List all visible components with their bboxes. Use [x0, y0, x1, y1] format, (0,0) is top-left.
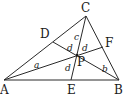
region-label-b: b [102, 64, 108, 74]
label-f: F [105, 36, 113, 50]
label-c: C [81, 1, 90, 15]
label-p: P [77, 55, 85, 69]
region-label-d-bottom: d [65, 63, 71, 73]
cevian-af [4, 47, 103, 80]
label-d: D [40, 27, 50, 41]
region-label-d-left: d [67, 43, 73, 53]
triangle-diagram: A B C D E F P a b c d d d [0, 0, 126, 96]
label-b: B [114, 83, 123, 96]
region-label-d-right: d [82, 43, 88, 53]
region-label-c: c [74, 32, 79, 42]
label-e: E [67, 83, 76, 96]
region-label-a: a [34, 60, 39, 70]
label-a: A [0, 83, 9, 96]
